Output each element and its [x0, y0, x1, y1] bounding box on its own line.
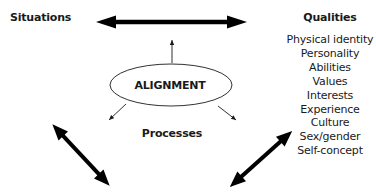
qualities-list: Physical identity Personality Abilities …	[287, 33, 374, 158]
quality-item: Self-concept	[287, 144, 374, 158]
double-arrow-lower-left	[48, 120, 115, 190]
qualities-heading: Qualities	[303, 12, 356, 23]
quality-item: Experience	[287, 103, 374, 117]
quality-item: Culture	[287, 116, 374, 130]
processes-label: Processes	[142, 128, 202, 139]
quality-item: Physical identity	[287, 33, 374, 47]
quality-item: Abilities	[287, 61, 374, 75]
quality-item: Values	[287, 75, 374, 89]
double-arrow-top	[96, 16, 247, 29]
quality-item: Personality	[287, 47, 374, 61]
quality-item: Sex/gender	[287, 130, 374, 144]
situations-label: Situations	[10, 12, 71, 23]
alignment-diagram: Situations Qualities ALIGNMENT Processes…	[0, 0, 376, 195]
quality-item: Interests	[287, 89, 374, 103]
arrow-down-left-icon	[109, 104, 126, 120]
alignment-label: ALIGNMENT	[134, 80, 205, 91]
arrow-down-right-icon	[218, 106, 236, 120]
